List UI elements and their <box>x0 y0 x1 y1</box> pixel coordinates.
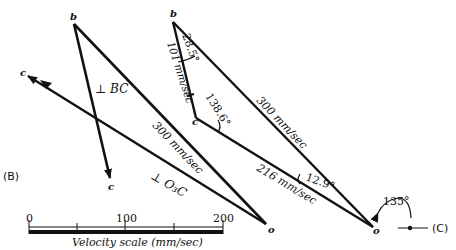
label-vb-right: 300 mm/sec <box>254 94 310 151</box>
vector-b-c-down <box>74 24 110 178</box>
label-angle-138-6: 138.6° <box>202 91 233 129</box>
point-o-left: o <box>268 224 275 235</box>
point-b-right: b <box>170 8 177 19</box>
point-c-right: c <box>192 116 198 127</box>
scale-caption: Velocity scale (mm/sec) <box>72 236 203 249</box>
point-o-right: o <box>373 225 380 236</box>
pivot-point <box>408 226 412 230</box>
panel-label-b: (B) <box>3 170 19 183</box>
label-perp-bc: ⊥ BC <box>95 82 128 96</box>
vector-b-o-right <box>173 22 373 227</box>
scale-tick-200: 200 <box>213 212 234 225</box>
label-angle-135: 135° <box>383 195 410 208</box>
point-c-left-bottom: c <box>108 181 114 192</box>
panel-label-c: (C) <box>432 222 448 235</box>
panel-b-polygon <box>28 24 266 224</box>
point-c-left-top: c <box>20 67 26 78</box>
scale-tick-100: 100 <box>116 212 137 225</box>
scale-tick-0: 0 <box>26 212 33 225</box>
velocity-diagram: b c c o ⊥ BC 300 mm/sec ⊥ O₃C (B) 0 100 … <box>0 0 456 250</box>
point-b-left: b <box>70 11 77 22</box>
